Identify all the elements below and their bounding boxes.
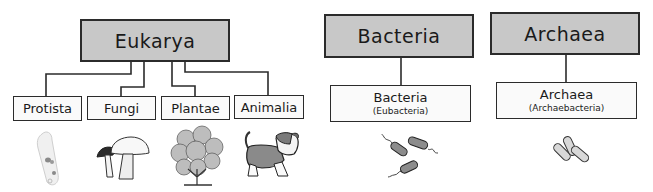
domain-box-eukarya: Eukarya — [80, 19, 230, 62]
kingdom-label: Bacteria — [373, 90, 427, 105]
flagellated-bacteria-icon — [372, 133, 444, 181]
mushroom-icon — [93, 135, 151, 183]
domain-label: Bacteria — [358, 25, 441, 47]
kingdom-label: Fungi — [104, 101, 139, 116]
kingdom-label: Animalia — [241, 100, 298, 115]
domain-box-bacteria: Bacteria — [324, 14, 474, 58]
kingdom-box-archaea: Archaea (Archaebacteria) — [496, 82, 637, 119]
dog-icon — [240, 130, 304, 180]
kingdom-label: Archaea — [540, 87, 593, 102]
kingdom-box-bacteria: Bacteria (Eubacteria) — [330, 85, 471, 122]
kingdom-sublabel: (Archaebacteria) — [529, 102, 604, 114]
domain-label: Archaea — [524, 23, 605, 45]
kingdom-box-plantae: Plantae — [161, 96, 230, 120]
kingdom-label: Protista — [23, 101, 72, 116]
domain-label: Eukarya — [115, 30, 196, 52]
kingdom-box-animalia: Animalia — [234, 95, 304, 119]
kingdom-label: Plantae — [171, 101, 220, 116]
plant-icon — [168, 125, 226, 187]
kingdom-box-protista: Protista — [13, 96, 82, 121]
domain-box-archaea: Archaea — [490, 12, 640, 55]
kingdom-sublabel: (Eubacteria) — [373, 105, 428, 117]
archaea-cells-icon — [550, 136, 594, 172]
paramecium-icon — [32, 130, 68, 190]
kingdom-box-fungi: Fungi — [87, 96, 156, 120]
